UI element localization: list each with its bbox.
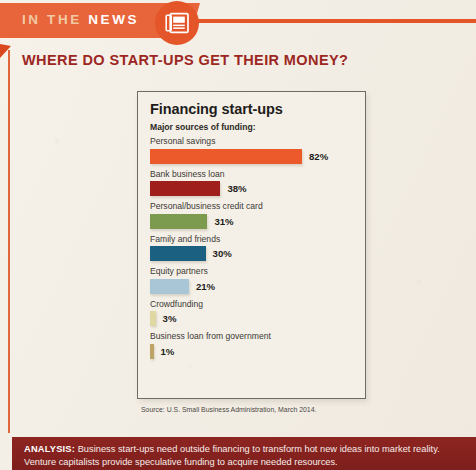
page-title: WHERE DO START-UPS GET THEIR MONEY?	[22, 52, 348, 68]
chart-source: Source: U.S. Small Business Administrati…	[141, 406, 316, 413]
bar-row: 1%	[150, 344, 356, 359]
bar-value: 30%	[213, 248, 232, 259]
bar-group: Equity partners21%	[150, 266, 356, 294]
analysis-body: Business start-ups need outside financin…	[24, 444, 440, 467]
bar-fill	[150, 311, 156, 326]
bar-value: 82%	[309, 151, 328, 162]
bar-value: 38%	[227, 183, 246, 194]
bar-chart: Personal savings82%Bank business loan38%…	[150, 136, 356, 364]
newspaper-icon	[155, 1, 199, 45]
bar-label: Crowdfunding	[150, 299, 356, 309]
news-banner: IN THE NEWS	[0, 0, 476, 46]
bar-label: Personal/business credit card	[150, 201, 356, 211]
bar-group: Personal savings82%	[150, 136, 356, 164]
bar-fill	[150, 246, 206, 261]
bar-value: 3%	[163, 313, 177, 324]
banner-label-bold: NEWS	[88, 12, 139, 27]
banner-label: IN THE NEWS	[22, 12, 139, 27]
bar-label: Personal savings	[150, 136, 356, 146]
bar-fill	[150, 344, 154, 359]
infographic-page: IN THE NEWS WHERE DO START-UPS GET THEIR…	[0, 0, 476, 470]
bar-group: Family and friends30%	[150, 234, 356, 262]
bar-label: Business loan from government	[150, 331, 356, 341]
banner-rule	[196, 19, 476, 23]
bar-row: 3%	[150, 311, 356, 326]
analysis-text: ANALYSIS: Business start-ups need outsid…	[24, 443, 466, 468]
bar-group: Bank business loan38%	[150, 169, 356, 197]
bar-row: 31%	[150, 214, 356, 229]
left-accent-rule	[8, 50, 10, 433]
bar-fill	[150, 181, 220, 196]
bar-row: 30%	[150, 246, 356, 261]
banner-label-light: IN THE	[22, 12, 82, 27]
bar-group: Crowdfunding3%	[150, 299, 356, 327]
bar-label: Bank business loan	[150, 169, 356, 179]
analysis-band: ANALYSIS: Business start-ups need outsid…	[12, 437, 476, 470]
bar-group: Personal/business credit card31%	[150, 201, 356, 229]
bar-value: 1%	[161, 346, 175, 357]
bar-label: Equity partners	[150, 266, 356, 276]
bar-row: 82%	[150, 149, 356, 164]
bar-row: 38%	[150, 181, 356, 196]
bar-value: 21%	[196, 281, 215, 292]
bar-fill	[150, 214, 207, 229]
bar-group: Business loan from government1%	[150, 331, 356, 359]
bar-fill	[150, 149, 302, 164]
chart-title: Financing start-ups	[150, 101, 283, 117]
chart-card: Financing start-ups Major sources of fun…	[137, 91, 366, 399]
bar-fill	[150, 279, 189, 294]
bar-row: 21%	[150, 279, 356, 294]
bar-value: 31%	[214, 216, 233, 227]
bar-label: Family and friends	[150, 234, 356, 244]
analysis-label: ANALYSIS:	[24, 444, 75, 454]
chart-subtitle: Major sources of funding:	[150, 122, 256, 132]
